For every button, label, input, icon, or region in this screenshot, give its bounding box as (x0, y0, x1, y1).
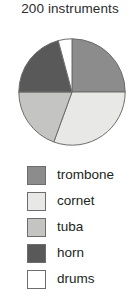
pie-chart-svg (18, 38, 126, 146)
pie-slice-trombone[interactable] (72, 39, 125, 92)
legend-item-horn[interactable]: horn (0, 240, 140, 266)
legend-swatch-horn (27, 244, 46, 263)
chart-legend: trombonecornettubahorndrums (0, 162, 140, 292)
pie-chart (18, 38, 126, 146)
legend-item-tuba[interactable]: tuba (0, 214, 140, 240)
legend-swatch-cornet (27, 192, 46, 211)
pie-slice-group (19, 39, 125, 145)
legend-label-horn: horn (57, 246, 84, 260)
legend-item-drums[interactable]: drums (0, 266, 140, 292)
legend-label-tuba: tuba (57, 220, 83, 234)
chart-title: 200 instruments (0, 1, 140, 16)
legend-label-drums: drums (57, 272, 95, 286)
legend-swatch-trombone (27, 166, 46, 185)
legend-label-cornet: cornet (57, 194, 95, 208)
legend-swatch-tuba (27, 218, 46, 237)
legend-item-trombone[interactable]: trombone (0, 162, 140, 188)
legend-swatch-drums (27, 270, 46, 289)
legend-item-cornet[interactable]: cornet (0, 188, 140, 214)
legend-label-trombone: trombone (57, 168, 114, 182)
